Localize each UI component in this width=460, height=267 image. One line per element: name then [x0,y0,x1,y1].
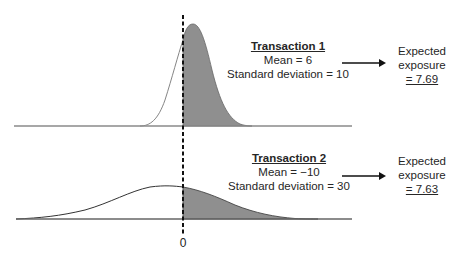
transaction2-exposure-value: = 7.63 [398,182,446,196]
transaction1-exposure-line2: exposure [398,58,446,72]
transaction1-exposure-line1: Expected [398,44,446,58]
zero-axis-label: 0 [180,236,187,250]
transaction1-exposure: Expected exposure = 7.69 [398,44,446,86]
transaction2-sd: Standard deviation = 30 [228,179,350,193]
transaction1-curve-left [140,40,183,126]
transaction2-exposure-line1: Expected [398,154,446,168]
transaction2-curve-left [16,186,183,219]
transaction2-exposure-line2: exposure [398,168,446,182]
transaction2-exposure: Expected exposure = 7.63 [398,154,446,196]
transaction2-title: Transaction 2 [228,151,350,165]
transaction2-mean: Mean = −10 [228,165,350,179]
transaction1-mean: Mean = 6 [227,53,349,67]
transaction1-sd: Standard deviation = 10 [227,67,349,81]
transaction1-exposure-value: = 7.69 [398,72,446,86]
transaction1-info: Transaction 1 Mean = 6 Standard deviatio… [227,39,349,81]
transaction1-title: Transaction 1 [227,39,349,53]
transaction2-info: Transaction 2 Mean = −10 Standard deviat… [228,151,350,193]
